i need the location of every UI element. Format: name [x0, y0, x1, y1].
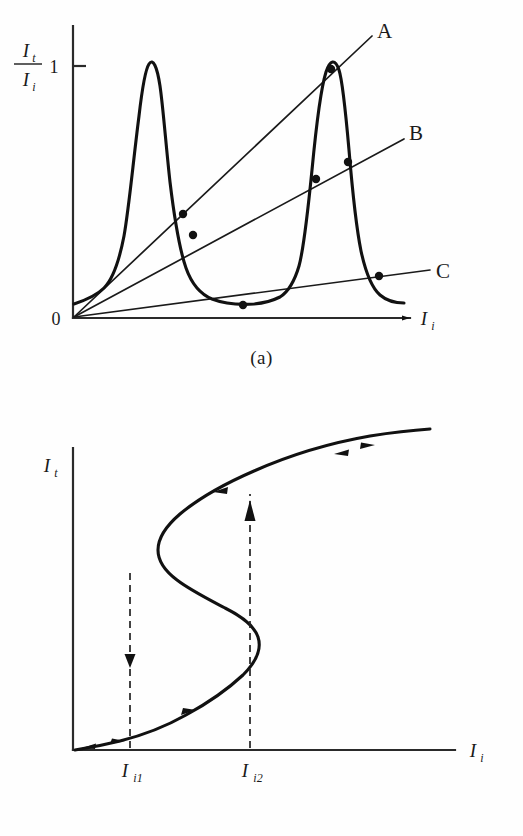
panel-a-y-axis-denominator: I	[22, 69, 31, 90]
panel-a-y-axis-label: I t I i	[14, 40, 42, 94]
panel-b-tick-label-i1-base: I	[121, 760, 130, 781]
panel-b-x-axis-label: I i	[469, 740, 484, 765]
panel-b-tick-label-i2-base: I	[241, 760, 250, 781]
panel-a: 1 0 I t I i I i	[0, 0, 523, 400]
bistable-s-curve	[75, 429, 430, 750]
intersection-dot-c2	[375, 272, 383, 280]
intersection-dot-b3	[344, 158, 352, 166]
panel-b-tick-label-i1-subscript: i1	[133, 771, 142, 785]
panel-a-y-tick-label: 1	[50, 57, 59, 77]
load-line-b	[74, 139, 404, 317]
load-line-a	[74, 36, 372, 317]
intersection-dot-c1	[239, 301, 247, 309]
switch-down-arrowhead	[125, 654, 136, 668]
panel-a-y-axis-numerator: I	[22, 40, 31, 61]
panel-b-y-axis-label: I t	[43, 455, 58, 480]
panel-b-tick-label-i2-subscript: i2	[253, 771, 262, 785]
panel-b-plot: I t I i I	[0, 400, 523, 836]
panel-b-y-axis-label-subscript: t	[54, 466, 58, 480]
switch-up-arrowhead	[245, 500, 256, 521]
intersection-dot-b2	[312, 175, 320, 183]
transmission-resonance-curve	[74, 62, 404, 304]
panel-b-tick-label-i1: I i1	[121, 760, 143, 785]
panel-a-y-axis-denominator-subscript: i	[32, 80, 35, 94]
panel-b-x-axis-label-base: I	[469, 740, 478, 761]
load-line-a-label: A	[377, 19, 393, 43]
intersection-dot-b1	[189, 231, 197, 239]
figure-page: 1 0 I t I i I i	[0, 0, 523, 836]
panel-a-caption: (a)	[0, 347, 523, 369]
panel-a-origin-label: 0	[52, 309, 61, 329]
panel-b-x-axis-label-subscript: i	[480, 751, 483, 765]
panel-b: I t I i I	[0, 400, 523, 836]
branch-arrow-upper-right-leftward	[334, 450, 349, 457]
panel-b-tick-label-i2: I i2	[241, 760, 263, 785]
panel-a-x-axis-label-base: I	[420, 308, 429, 329]
branch-arrow-upper-right-rightward	[360, 443, 375, 450]
panel-b-y-axis-label-base: I	[43, 455, 52, 476]
intersection-dot-a1	[179, 210, 187, 218]
load-line-b-label: B	[409, 121, 423, 145]
panel-a-x-axis-label: I i	[420, 308, 435, 333]
load-line-c-label: C	[436, 259, 450, 283]
panel-a-x-axis-arrowhead	[402, 316, 410, 321]
panel-a-plot: 1 0 I t I i I i	[0, 0, 523, 400]
panel-a-y-axis-numerator-subscript: t	[32, 51, 36, 65]
panel-a-x-axis-label-subscript: i	[431, 319, 434, 333]
intersection-dot-a2	[327, 65, 335, 73]
